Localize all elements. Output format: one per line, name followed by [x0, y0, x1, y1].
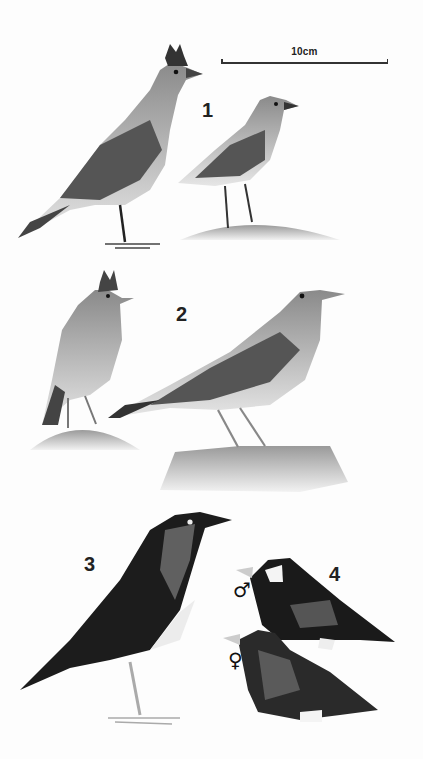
bird-2b — [108, 290, 348, 492]
bird-3 — [20, 512, 232, 724]
female-symbol-icon: ♀ — [228, 650, 243, 670]
figure-number-1: 1 — [202, 99, 213, 122]
bird-2a — [30, 270, 140, 450]
scale-bar: 10cm — [221, 50, 388, 64]
scale-bar-tick-left — [221, 59, 223, 64]
figure-number-2: 2 — [176, 303, 187, 326]
figure-number-3: 3 — [84, 553, 95, 576]
bird-4-female — [223, 630, 378, 722]
male-symbol-icon: ♂ — [233, 580, 251, 600]
field-guide-plate: 10cm 1 2 3 4 ♂ ♀ — [0, 0, 423, 759]
figure-number-4: 4 — [329, 563, 340, 586]
scale-bar-tick-right — [387, 59, 389, 64]
scale-bar-line — [221, 62, 388, 64]
scale-bar-label: 10cm — [221, 46, 388, 57]
bird-1a — [18, 44, 203, 248]
